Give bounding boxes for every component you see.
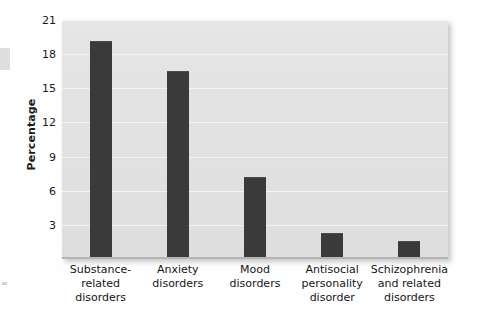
bar: [244, 177, 266, 259]
y-tick-label-18: 18: [30, 48, 56, 61]
x-tick-label-line: Schizophrenia: [367, 263, 452, 277]
x-tick-label-line: disorders: [135, 277, 220, 291]
x-tick-label-line: disorder: [290, 291, 375, 305]
x-tick-label-line: disorders: [367, 291, 452, 305]
y-tick-label-15: 15: [30, 82, 56, 95]
x-tick-label: Substance-relateddisorders: [58, 263, 143, 305]
x-tick-label-line: related: [58, 277, 143, 291]
x-tick-label: Schizophreniaand relateddisorders: [367, 263, 452, 305]
y-tick-label-12: 12: [30, 116, 56, 129]
scan-artifact-bottom: [2, 282, 7, 285]
x-tick-label: Mooddisorders: [212, 263, 297, 291]
x-tick-label-line: Antisocial: [290, 263, 375, 277]
x-tick-label-line: Anxiety: [135, 263, 220, 277]
y-tick-label-6: 6: [30, 184, 56, 197]
x-tick-label: Antisocialpersonalitydisorder: [290, 263, 375, 305]
x-tick-label-line: disorders: [58, 291, 143, 305]
y-tick-label-21: 21: [30, 14, 56, 27]
bar: [167, 71, 189, 259]
gridline-21: [62, 20, 448, 21]
y-axis-tick-labels: 36912151821: [28, 20, 56, 259]
bar: [90, 41, 112, 259]
x-tick-label-line: Substance-: [58, 263, 143, 277]
x-axis-baseline: [62, 257, 448, 259]
bar: [321, 233, 343, 259]
x-tick-label: Anxietydisorders: [135, 263, 220, 291]
x-tick-label-line: disorders: [212, 277, 297, 291]
x-axis-tick-labels: Substance-relateddisordersAnxietydisorde…: [62, 263, 448, 315]
scan-artifact-left: [0, 48, 10, 70]
y-tick-label-9: 9: [30, 150, 56, 163]
gridline-15: [62, 88, 448, 89]
x-tick-label-line: personality: [290, 277, 375, 291]
bar-chart-figure: Percentage 36912151821 Substance-related…: [0, 0, 477, 319]
gridline-12: [62, 122, 448, 123]
gridline-18: [62, 54, 448, 55]
y-tick-label-3: 3: [30, 218, 56, 231]
x-tick-label-line: Mood: [212, 263, 297, 277]
plot-area: [62, 20, 448, 259]
gridline-9: [62, 157, 448, 158]
x-tick-label-line: and related: [367, 277, 452, 291]
